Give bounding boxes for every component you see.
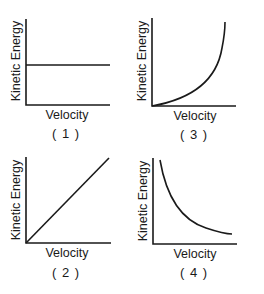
graph-1: Kinetic Energy Velocity ( 1 ) (0, 0, 132, 147)
graph-1-y-label: Kinetic Energy (9, 19, 23, 103)
graph-4-y-label: Kinetic Energy (136, 159, 150, 243)
graph-3-curve (152, 22, 225, 106)
graph-2-y-label: Kinetic Energy (9, 158, 23, 242)
graph-3-y-label: Kinetic Energy (135, 19, 149, 103)
graph-2-curve (26, 158, 109, 243)
graph-3-axes (152, 18, 236, 106)
graph-2: Kinetic Energy Velocity ( 2 ) (0, 140, 132, 287)
graph-4-curve (160, 160, 232, 234)
graph-1-axes (26, 19, 110, 105)
graph-4-x-label: Velocity (150, 247, 240, 261)
graph-1-number: ( 1 ) (46, 126, 86, 141)
graph-4: Kinetic Energy Velocity ( 4 ) (126, 140, 258, 287)
graph-3: Kinetic Energy Velocity ( 3 ) (126, 0, 258, 147)
graph-4-number: ( 4 ) (174, 265, 214, 280)
graph-2-number: ( 2 ) (46, 265, 86, 280)
graph-2-x-label: Velocity (22, 246, 112, 260)
graph-4-axes (153, 158, 237, 244)
graph-1-x-label: Velocity (22, 108, 112, 122)
graph-3-x-label: Velocity (150, 109, 240, 123)
